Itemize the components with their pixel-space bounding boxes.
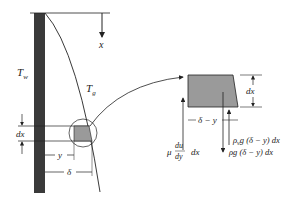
connector-curve [90, 77, 183, 126]
vapor-buoyancy-label: ρvg (δ − y) dx [232, 135, 280, 146]
y-label: y [57, 150, 62, 160]
dx-left-label: dx [16, 129, 25, 139]
svg-text:dy: dy [175, 152, 183, 161]
gravity-force-label: ρg (δ − y) dx [228, 147, 273, 157]
svg-text:dx: dx [191, 147, 200, 157]
x-axis-label: x [98, 39, 104, 50]
fluid-element-enlarged [188, 75, 238, 107]
dx-right-label: dx [246, 86, 255, 96]
delta-minus-y-label: δ − y [198, 115, 217, 125]
shear-force-label: μ [166, 147, 172, 157]
condensation-diagram: x Tw Tg dx y δ dx δ − y μ du dy dx ρvg ( [0, 0, 303, 197]
saturation-temperature-label: Tg [86, 82, 96, 97]
wall [34, 13, 45, 193]
svg-text:du: du [175, 141, 183, 150]
wall-temperature-label: Tw [17, 66, 28, 81]
fluid-element-small [74, 126, 92, 141]
